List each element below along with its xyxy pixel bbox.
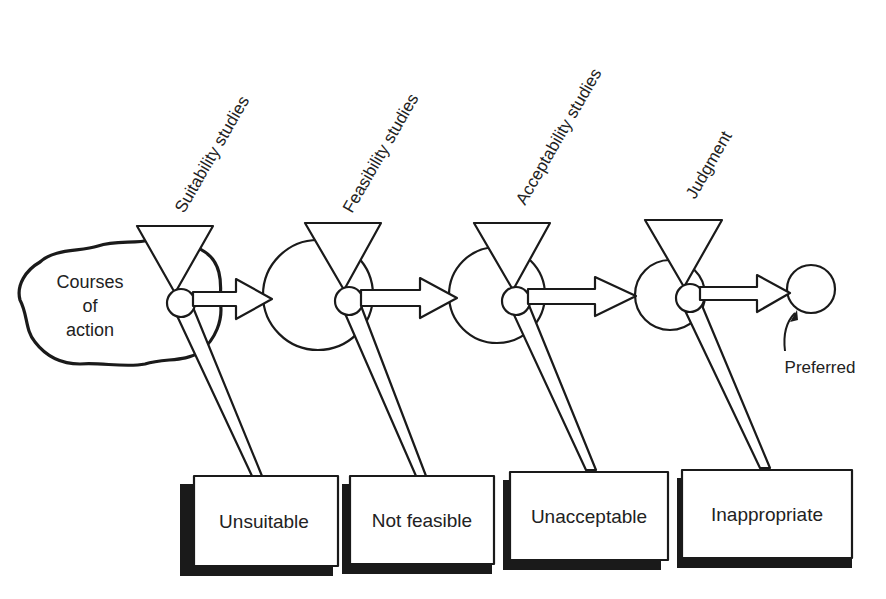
preferred-circle [787,265,835,313]
reject-chute [680,296,770,468]
reject-box-unsuitable: Unsuitable [180,476,338,576]
filter-node [335,287,363,315]
stage-label-suitability: Suitability studies [171,93,253,216]
cloud-label-line-2: of [82,296,98,316]
filter-node [167,289,195,317]
stage-judgment [645,220,790,468]
cloud-label-line-1: Courses [56,272,123,292]
reject-box-inappropriate: Inappropriate [677,470,852,568]
preferred-label: Preferred [785,358,856,377]
stage-label-acceptability: Acceptability studies [512,65,605,208]
reject-label: Inappropriate [711,504,823,525]
reject-label: Unacceptable [531,506,647,527]
reject-box-unacceptable: Unacceptable [503,472,668,570]
stage-acceptability [474,223,636,470]
cloud-label-line-3: action [66,320,114,340]
preferred-annotation: Preferred [784,310,855,377]
filter-node [502,287,530,315]
stage-label-feasibility: Feasibility studies [339,90,423,216]
reject-chute [340,298,426,476]
reject-label: Unsuitable [219,511,309,532]
reject-box-not-feasible: Not feasible [342,476,494,574]
stage-label-judgment: Judgment [682,128,736,202]
reject-label: Not feasible [372,510,472,531]
reject-chute [508,298,596,470]
pass-arrow [361,278,457,318]
course-of-action-filter-diagram: Courses of action Suitability studies Fe… [0,0,886,599]
pass-arrow [700,275,790,312]
